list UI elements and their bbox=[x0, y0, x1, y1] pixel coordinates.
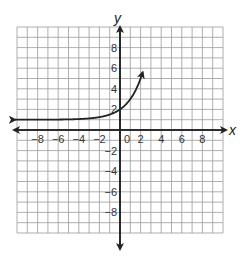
x-tick-label: −8 bbox=[31, 133, 44, 145]
y-tick-label: 2 bbox=[111, 103, 117, 115]
x-tick-label: 0 bbox=[124, 133, 130, 145]
y-tick-label: −2 bbox=[104, 145, 117, 157]
y-tick-label: 4 bbox=[111, 83, 117, 95]
y-tick-label: −8 bbox=[104, 206, 117, 218]
y-tick-label: −6 bbox=[104, 186, 117, 198]
y-tick-label: 6 bbox=[111, 62, 117, 74]
x-tick-label: 6 bbox=[179, 133, 185, 145]
coordinate-plane: −8−6−4−2024688642−2−4−6−8 x y bbox=[0, 0, 249, 257]
y-tick-label: 8 bbox=[111, 42, 117, 54]
x-tick-label: 8 bbox=[199, 133, 205, 145]
x-tick-label: 2 bbox=[138, 133, 144, 145]
y-tick-label: −4 bbox=[104, 165, 117, 177]
x-axis-label: x bbox=[228, 122, 237, 138]
x-tick-label: −6 bbox=[52, 133, 65, 145]
x-tick-label: −4 bbox=[73, 133, 86, 145]
x-tick-label: −2 bbox=[93, 133, 106, 145]
x-tick-label: 4 bbox=[158, 133, 164, 145]
y-axis-label: y bbox=[113, 10, 122, 26]
